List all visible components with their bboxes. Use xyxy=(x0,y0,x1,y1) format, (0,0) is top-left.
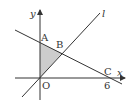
x-tick-6: 6 xyxy=(104,80,110,91)
point-A-label: A xyxy=(40,32,49,43)
point-C-label: C xyxy=(104,66,112,77)
line-l-label: l xyxy=(102,8,105,19)
y-axis-label: y xyxy=(29,8,36,19)
coordinate-diagram: y x l A B C O 6 xyxy=(0,0,132,108)
point-B-label: B xyxy=(56,39,63,50)
origin-label: O xyxy=(42,80,50,91)
line-l xyxy=(22,13,100,97)
x-axis-label: x xyxy=(117,67,123,78)
